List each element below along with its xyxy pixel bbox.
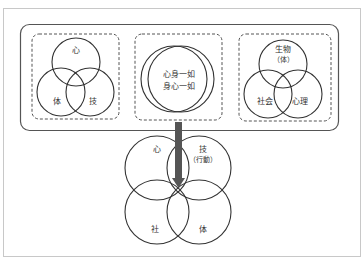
diagram-canvas: 心 体 技 心身一如 身心一如 生物 （体） 社会 心理 心 技 （行動） 社 …	[0, 0, 362, 263]
label-skill: 技	[89, 96, 97, 106]
label-shinshin-ichinyo-reverse: 身心一如	[163, 81, 195, 91]
label-mind-bottom: 心	[153, 145, 161, 154]
label-behavior-bottom: （行動）	[189, 155, 217, 164]
label-biological: 生物	[275, 44, 291, 54]
label-social-bottom: 社	[151, 224, 159, 234]
label-body: 体	[53, 96, 61, 106]
label-shinshin-ichinyo: 心身一如	[163, 69, 195, 79]
arrow-shaft	[175, 122, 182, 180]
label-biological-body: （体）	[273, 55, 294, 64]
label-body-bottom: 体	[199, 224, 207, 234]
label-social: 社会	[257, 96, 273, 106]
label-mind: 心	[72, 46, 80, 55]
label-psychological: 心理	[292, 97, 308, 106]
label-skill-bottom: 技	[199, 144, 207, 154]
